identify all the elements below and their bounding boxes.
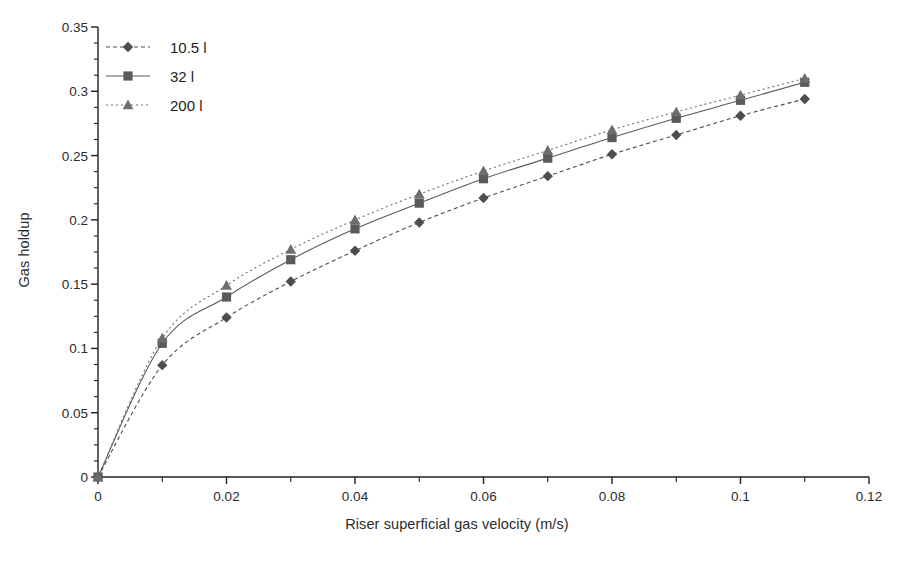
series-line	[98, 78, 805, 477]
data-point-marker-triangle	[671, 106, 682, 116]
data-point-marker-diamond	[286, 276, 296, 286]
data-point-marker-square	[607, 133, 616, 142]
y-tick-label: 0.15	[30, 277, 88, 292]
data-point-marker-diamond	[478, 193, 488, 203]
gas-holdup-chart: 10.5 l32 l200 l Riser superficial gas ve…	[0, 0, 914, 562]
legend-item-10-5-l: 10.5 l	[106, 39, 207, 56]
x-tick-label: 0.1	[731, 489, 750, 504]
data-point-marker-square	[350, 224, 359, 233]
data-point-marker-triangle	[350, 214, 361, 224]
data-point-marker-square	[415, 199, 424, 208]
data-point-marker-triangle	[607, 124, 618, 134]
data-point-marker-triangle	[285, 244, 296, 254]
series-10-5-l	[93, 94, 810, 482]
y-tick-label: 0.35	[30, 20, 88, 35]
series-32-l	[93, 78, 809, 482]
data-point-marker-triangle	[414, 189, 425, 199]
y-tick-label: 0.2	[30, 212, 88, 227]
data-point-marker-diamond	[350, 246, 360, 256]
y-tick-label: 0.05	[30, 405, 88, 420]
x-tick-label: 0.02	[213, 489, 239, 504]
x-tick-label: 0	[94, 489, 102, 504]
y-axis-title: Gas holdup	[16, 180, 32, 320]
data-point-marker-square	[222, 292, 231, 301]
data-point-marker-diamond	[543, 171, 553, 181]
legend-item-200-l: 200 l	[106, 97, 203, 114]
data-point-marker-square	[479, 174, 488, 183]
x-tick-label: 0.04	[342, 489, 368, 504]
series-200-l	[93, 73, 811, 481]
x-tick-label: 0.08	[599, 489, 625, 504]
data-point-marker-triangle	[221, 280, 232, 290]
data-point-marker-diamond	[414, 217, 424, 227]
y-tick-label: 0	[30, 470, 88, 485]
data-point-marker-diamond	[735, 111, 745, 121]
legend: 10.5 l32 l200 l	[106, 39, 207, 114]
plot-canvas: 10.5 l32 l200 l	[0, 0, 914, 562]
data-point-marker-diamond	[123, 42, 133, 52]
legend-item-32-l: 32 l	[106, 68, 194, 85]
y-tick-label: 0.25	[30, 148, 88, 163]
data-point-marker-diamond	[800, 94, 810, 104]
x-tick-label: 0.12	[856, 489, 882, 504]
x-tick-label: 0.06	[470, 489, 496, 504]
y-tick-label: 0.3	[30, 84, 88, 99]
data-point-marker-square	[123, 71, 132, 80]
data-point-marker-square	[543, 154, 552, 163]
data-point-marker-triangle	[542, 145, 553, 155]
legend-label: 200 l	[170, 97, 203, 114]
series-line	[98, 82, 805, 477]
legend-label: 10.5 l	[170, 39, 207, 56]
data-point-marker-diamond	[607, 149, 617, 159]
x-axis-title: Riser superficial gas velocity (m/s)	[0, 516, 914, 532]
data-point-marker-square	[286, 255, 295, 264]
y-tick-label: 0.1	[30, 341, 88, 356]
data-point-marker-diamond	[221, 312, 231, 322]
data-point-marker-diamond	[671, 130, 681, 140]
data-point-marker-triangle	[478, 166, 489, 176]
legend-label: 32 l	[170, 68, 194, 85]
series-line	[98, 99, 805, 477]
